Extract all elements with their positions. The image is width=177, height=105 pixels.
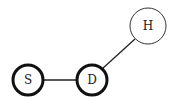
edge-d-h xyxy=(102,39,135,69)
node-h-label: H xyxy=(143,19,153,33)
node-s-label: S xyxy=(24,73,32,87)
node-d: D xyxy=(77,65,107,95)
node-s: S xyxy=(13,65,43,95)
graph-diagram: S D H xyxy=(0,0,177,105)
node-h: H xyxy=(130,8,166,44)
node-d-label: D xyxy=(87,73,97,87)
